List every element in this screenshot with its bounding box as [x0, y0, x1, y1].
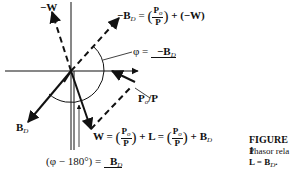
- neg-w-vector: [52, 12, 71, 71]
- w-stub: [64, 71, 71, 82]
- phi-equation: φ = −BD: [133, 46, 176, 59]
- bd-vector: [28, 71, 71, 122]
- l-dashed-vector: [91, 86, 132, 129]
- phi-minus-180-equation: (φ − 180°) = BD: [46, 156, 122, 169]
- figure-caption-line2: L = BD.: [249, 157, 277, 169]
- po-p-label: Po/P: [138, 93, 158, 106]
- phi-arc: [93, 46, 104, 71]
- figure-caption-line1: Phasor rela: [249, 146, 289, 156]
- po-over-p-fraction: PoP: [152, 6, 163, 27]
- w-equation: W = (PoP) + L = (PoP) + BD: [93, 127, 212, 148]
- phi-leader: [103, 52, 132, 60]
- neg-w-label: −W: [40, 2, 57, 13]
- neg-bd-vector: [71, 18, 119, 71]
- neg-bd-equation: −BD = (PoP) + (−W): [117, 6, 205, 27]
- po-p-vector: [112, 71, 135, 82]
- bd-label: BD: [16, 122, 28, 135]
